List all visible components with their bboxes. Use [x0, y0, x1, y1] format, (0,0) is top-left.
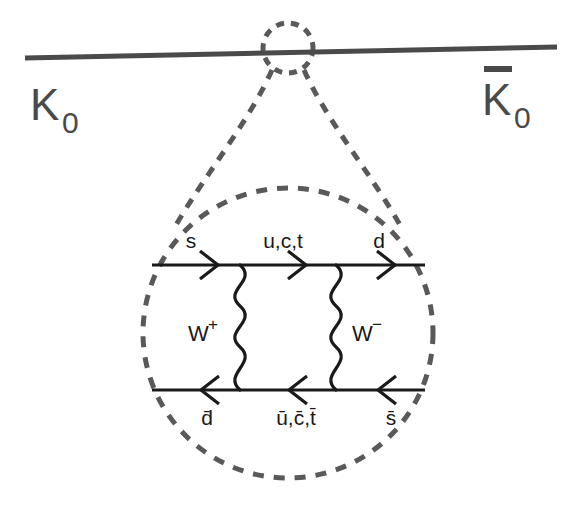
teardrop-right-leg [304, 70, 400, 225]
dashed-teardrop-group [176, 70, 400, 225]
quark-label-bottom-dbar: d̄ [201, 406, 213, 429]
quark-label-bottom-ucTbar: ū,c̄,t̄ [276, 406, 316, 429]
quark-label-top-ucT: u,c,t [263, 229, 303, 252]
left-meson-subscript: 0 [62, 106, 79, 139]
w-plus-charge: + [208, 315, 218, 334]
w-minus-symbol: W [352, 321, 373, 346]
w-boson-wavy-left [235, 265, 245, 390]
w-boson-wavy-right [331, 265, 341, 390]
quark-label-bottom-sbar: s̄ [386, 406, 397, 429]
diagram-root: K 0 K 0 s u,c,t d d̄ ū,c̄,t̄ [0, 0, 575, 512]
right-meson-symbol: K [482, 75, 511, 124]
w-plus-symbol: W [188, 321, 209, 346]
w-minus-label-group: W − [352, 315, 382, 346]
left-meson-symbol: K [30, 80, 59, 129]
meson-propagator-line [25, 47, 557, 58]
quark-label-top-d: d [373, 229, 385, 252]
right-meson-subscript: 0 [514, 101, 531, 134]
left-meson-label-group: K 0 [30, 80, 79, 139]
bottom-quark-line-group [152, 376, 425, 404]
dashed-vertex-circle [263, 23, 313, 73]
feynman-diagram-canvas: K 0 K 0 s u,c,t d d̄ ū,c̄,t̄ [0, 0, 575, 512]
w-minus-charge: − [372, 315, 382, 334]
right-meson-label-group: K 0 [482, 69, 531, 134]
w-plus-label-group: W + [188, 315, 218, 346]
quark-label-top-s: s [186, 229, 197, 252]
top-quark-line-group [152, 251, 425, 279]
